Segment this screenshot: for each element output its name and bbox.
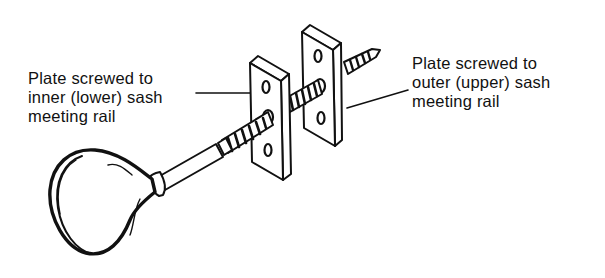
- key-bow: [50, 150, 155, 254]
- right-label-line-3: meeting rail: [412, 92, 550, 111]
- screw-tip: [344, 49, 380, 74]
- left-plate-label: Plate screwed to inner (lower) sash meet…: [28, 69, 163, 126]
- fastener-illustration: [0, 0, 605, 278]
- right-plate-label: Plate screwed to outer (upper) sash meet…: [412, 54, 550, 111]
- key-shank: [149, 138, 232, 196]
- left-label-line-3: meeting rail: [28, 107, 163, 126]
- right-label-line-2: outer (upper) sash: [412, 73, 550, 92]
- right-label-line-1: Plate screwed to: [412, 54, 550, 73]
- right-leader-line: [347, 90, 408, 108]
- left-label-line-2: inner (lower) sash: [28, 88, 163, 107]
- left-label-line-1: Plate screwed to: [28, 69, 163, 88]
